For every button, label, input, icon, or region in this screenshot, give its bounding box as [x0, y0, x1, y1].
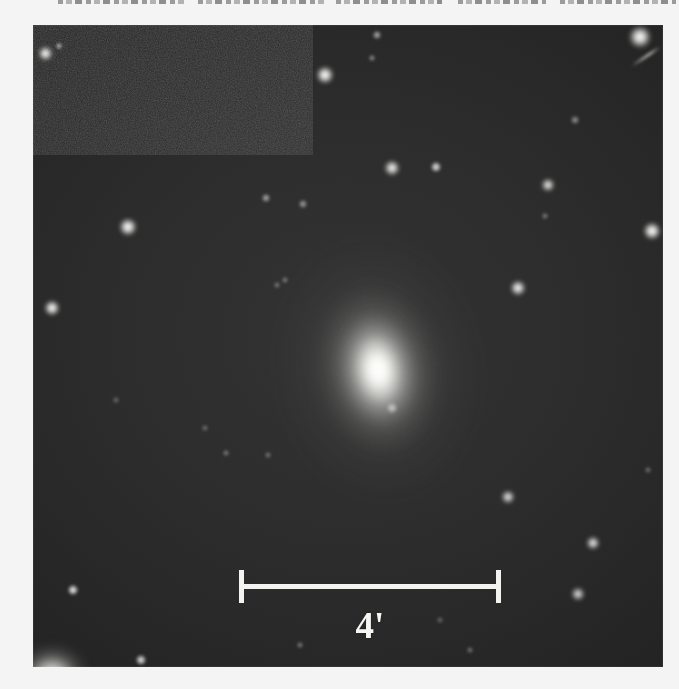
- galaxy-mid-halo: [303, 273, 453, 466]
- field-star: [630, 27, 649, 46]
- scale-bar-label: 4': [239, 605, 501, 647]
- field-star: [542, 179, 554, 191]
- field-star: [265, 452, 271, 458]
- field-star: [587, 537, 599, 549]
- field-star: [317, 67, 333, 83]
- scale-bar-cap-left: [239, 570, 244, 603]
- film-grain-noise: [33, 25, 313, 155]
- edge-clipped-bright-object: [33, 637, 89, 667]
- field-star: [202, 425, 208, 431]
- field-star: [572, 588, 583, 599]
- cut-off-caption-text-sliver: [0, 0, 679, 9]
- galaxy-core: [353, 335, 403, 404]
- field-star: [282, 277, 288, 283]
- caption-text-fragment: [458, 0, 546, 4]
- field-star: [387, 403, 396, 412]
- scale-bar-cap-right: [496, 570, 501, 603]
- galaxy-outer-halo: [253, 220, 503, 520]
- scale-bar-line: [239, 584, 501, 589]
- figure-page: 4': [0, 0, 679, 689]
- field-star: [644, 223, 661, 240]
- field-star: [39, 47, 52, 60]
- plate-artifact-streak: [631, 46, 661, 67]
- field-star: [437, 617, 443, 623]
- sky-background-gradient: [33, 25, 663, 667]
- field-star: [136, 655, 146, 665]
- field-star: [274, 282, 280, 288]
- film-grain-noise-dark: [33, 25, 313, 155]
- galaxy-inner-halo: [334, 311, 422, 429]
- galaxy-nucleus: [366, 353, 391, 388]
- field-star: [542, 213, 549, 220]
- astronomical-plate-image: 4': [33, 25, 663, 667]
- field-star: [299, 200, 306, 207]
- field-star: [571, 116, 578, 123]
- caption-text-fragment: [560, 0, 676, 4]
- field-star: [385, 161, 399, 175]
- caption-text-fragment: [336, 0, 442, 4]
- field-star: [511, 281, 525, 295]
- caption-text-fragment: [58, 0, 186, 4]
- field-star: [113, 397, 119, 403]
- field-star: [369, 55, 376, 62]
- field-star: [431, 162, 442, 173]
- field-star: [645, 467, 651, 473]
- field-star: [297, 642, 304, 649]
- field-star: [262, 194, 270, 202]
- field-star: [120, 219, 135, 234]
- field-star: [223, 450, 229, 456]
- field-star: [56, 43, 63, 50]
- field-star: [467, 647, 473, 653]
- caption-text-fragment: [198, 0, 324, 4]
- field-star: [45, 301, 59, 315]
- field-star: [373, 31, 381, 39]
- field-star: [68, 585, 79, 596]
- field-star: [502, 491, 514, 503]
